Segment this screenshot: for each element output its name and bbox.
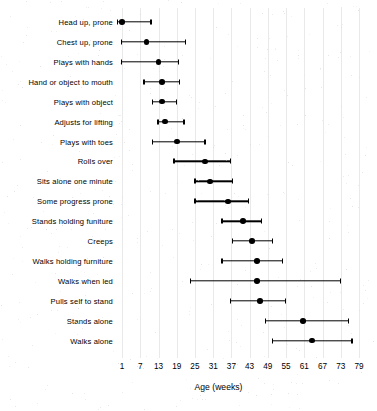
milestone-label: Creeps [88, 237, 113, 246]
data-point [257, 298, 263, 304]
noise-speck [214, 145, 215, 146]
noise-speck [192, 222, 193, 223]
noise-speck [1, 305, 2, 306]
noise-speck [262, 13, 263, 14]
x-tick-label: 55 [282, 362, 291, 372]
noise-speck [367, 298, 368, 299]
noise-speck [181, 2, 182, 3]
milestone-label: Head up, prone [59, 18, 113, 27]
noise-speck [237, 155, 238, 156]
noise-speck [107, 143, 108, 144]
milestone-label: Plays with toes [60, 137, 113, 146]
noise-speck [155, 332, 156, 333]
interval-cap-high [183, 119, 184, 124]
noise-speck [171, 128, 172, 129]
interval-cap-low [221, 219, 222, 224]
noise-speck [84, 23, 85, 24]
interval-line [121, 41, 186, 42]
noise-speck [50, 2, 51, 3]
noise-speck [150, 191, 151, 192]
noise-speck [271, 306, 272, 307]
noise-speck [22, 87, 23, 88]
noise-speck [329, 380, 330, 381]
noise-speck [31, 227, 32, 228]
noise-speck [189, 314, 190, 315]
noise-speck [179, 233, 180, 234]
noise-speck [291, 16, 292, 17]
noise-speck [155, 370, 156, 371]
noise-speck [112, 260, 113, 261]
noise-speck [338, 57, 339, 58]
noise-speck [14, 191, 15, 192]
noise-speck [338, 383, 339, 384]
noise-speck [19, 302, 20, 303]
noise-speck [116, 134, 117, 135]
noise-speck [28, 367, 29, 368]
interval-cap-low [230, 298, 231, 303]
noise-speck [259, 144, 260, 145]
interval-cap-low [173, 159, 174, 164]
noise-speck [298, 55, 299, 56]
noise-speck [27, 27, 28, 28]
noise-speck [92, 236, 93, 237]
noise-speck [298, 50, 299, 51]
interval-cap-low [232, 239, 233, 244]
milestone-label: Rolls over [78, 157, 113, 166]
noise-speck [284, 193, 285, 194]
noise-speck [211, 304, 212, 305]
interval-cap-high [285, 298, 286, 303]
noise-speck [103, 257, 104, 258]
noise-speck [228, 207, 229, 208]
interval-cap-high [272, 239, 273, 244]
noise-speck [348, 232, 349, 233]
noise-speck [84, 272, 85, 273]
noise-speck [230, 281, 231, 282]
noise-speck [225, 205, 226, 206]
noise-speck [79, 151, 80, 152]
interval-line [195, 181, 232, 182]
x-tick-label: 25 [190, 362, 199, 372]
noise-speck [140, 14, 141, 15]
noise-speck [351, 75, 352, 76]
noise-speck [56, 229, 57, 230]
noise-speck [365, 155, 366, 156]
noise-speck [26, 35, 27, 36]
data-point [225, 199, 231, 205]
interval-cap-low [194, 199, 195, 204]
noise-speck [124, 68, 125, 69]
noise-speck [275, 49, 276, 50]
noise-speck [320, 161, 321, 162]
noise-speck [172, 146, 173, 147]
noise-speck [180, 400, 181, 401]
noise-speck [10, 16, 11, 17]
noise-speck [108, 405, 109, 406]
noise-speck [240, 3, 241, 4]
milestone-label: Pulls self to stand [51, 296, 113, 305]
noise-speck [343, 309, 344, 310]
noise-speck [351, 333, 352, 334]
noise-speck [346, 183, 347, 184]
noise-speck [287, 95, 288, 96]
noise-speck [267, 194, 268, 195]
noise-speck [291, 382, 292, 383]
noise-speck [159, 71, 160, 72]
noise-speck [164, 88, 165, 89]
noise-speck [119, 115, 120, 116]
noise-speck [13, 258, 14, 259]
noise-speck [78, 185, 79, 186]
noise-speck [2, 339, 3, 340]
x-tick-label: 67 [318, 362, 327, 372]
noise-speck [122, 229, 123, 230]
noise-speck [304, 75, 305, 76]
data-point [240, 218, 246, 224]
noise-speck [100, 239, 101, 240]
noise-speck [20, 322, 21, 323]
noise-speck [190, 388, 191, 389]
noise-speck [129, 30, 130, 31]
noise-speck [72, 281, 73, 282]
milestone-row: Walks holding furniture [0, 251, 377, 271]
noise-speck [201, 264, 202, 265]
noise-speck [243, 125, 244, 126]
noise-speck [7, 196, 8, 197]
x-axis-title: Age (weeks) [0, 382, 377, 392]
